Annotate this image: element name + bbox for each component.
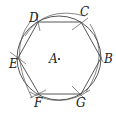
label-C: C [80,5,89,19]
center-point [58,58,60,60]
hexagon [18,22,101,94]
label-G: G [76,96,86,110]
label-F: F [33,96,43,110]
label-D: D [28,11,39,25]
label-E: E [8,57,18,71]
label-B: B [103,52,113,66]
tick-C [72,18,88,30]
hexagon-diagram: D C B G F E A [0,0,116,115]
label-A: A [48,52,58,66]
